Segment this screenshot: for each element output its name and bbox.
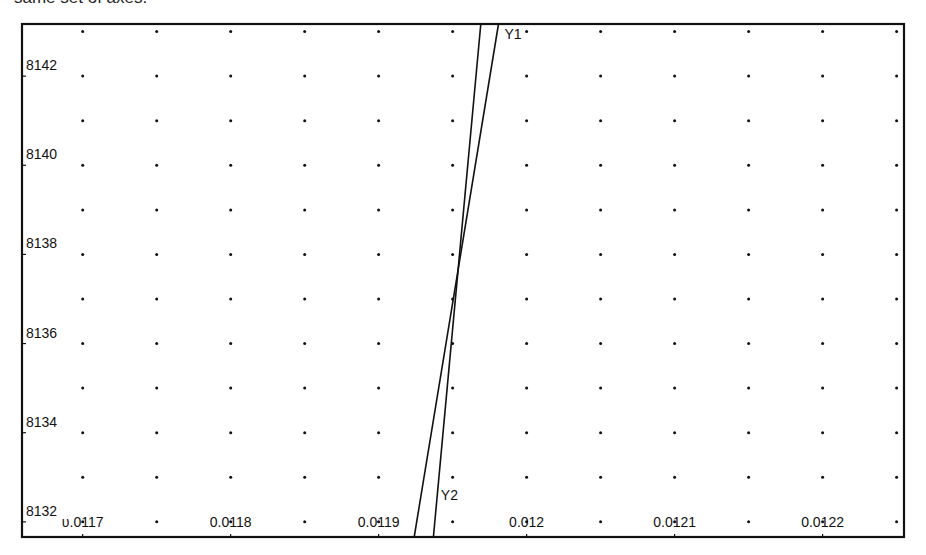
grid-dot bbox=[377, 164, 380, 167]
grid-dot bbox=[525, 30, 528, 33]
grid-dot bbox=[821, 431, 824, 434]
grid-dot bbox=[599, 520, 602, 523]
grid-dot bbox=[525, 119, 528, 122]
grid-dot bbox=[821, 75, 824, 78]
grid-dot bbox=[895, 164, 898, 167]
grid-dot bbox=[821, 30, 824, 33]
y-tick-label: 8134 bbox=[26, 414, 57, 430]
grid-dot bbox=[81, 30, 84, 33]
grid-dot bbox=[229, 30, 232, 33]
grid-dot bbox=[303, 520, 306, 523]
grid-dot bbox=[821, 208, 824, 211]
grid-dot bbox=[81, 75, 84, 78]
grid-dot bbox=[303, 298, 306, 301]
grid-dot bbox=[895, 476, 898, 479]
grid-dot bbox=[377, 30, 380, 33]
grid-dot bbox=[895, 30, 898, 33]
grid-dot bbox=[229, 298, 232, 301]
grid-dot bbox=[747, 75, 750, 78]
y-tick-label: 8138 bbox=[26, 235, 57, 251]
grid-dot bbox=[895, 520, 898, 523]
grid-dot bbox=[599, 387, 602, 390]
grid-dot bbox=[377, 208, 380, 211]
grid-dot bbox=[747, 520, 750, 523]
x-tick-label: 0.0122 bbox=[801, 514, 844, 530]
grid-dot bbox=[377, 75, 380, 78]
y-axis-labels: 813281348136813881408142 bbox=[26, 57, 57, 519]
grid-dot bbox=[747, 431, 750, 434]
grid-dot bbox=[229, 119, 232, 122]
grid-dot bbox=[229, 476, 232, 479]
grid-dot bbox=[747, 208, 750, 211]
grid-dot bbox=[821, 387, 824, 390]
grid-dot bbox=[155, 30, 158, 33]
grid-dot bbox=[895, 298, 898, 301]
grid-dot bbox=[673, 253, 676, 256]
x-tick-label: 0.0119 bbox=[358, 514, 400, 530]
grid-dot bbox=[673, 476, 676, 479]
grid-dot bbox=[155, 476, 158, 479]
x-tick-label: 0.012 bbox=[509, 514, 544, 530]
grid-dot bbox=[229, 75, 232, 78]
grid-dot bbox=[303, 342, 306, 345]
grid-dot bbox=[599, 119, 602, 122]
grid-dot bbox=[525, 431, 528, 434]
grid-dot bbox=[155, 387, 158, 390]
grid-dot bbox=[747, 253, 750, 256]
grid-dot bbox=[525, 164, 528, 167]
grid-dot bbox=[525, 387, 528, 390]
grid-dot bbox=[303, 30, 306, 33]
grid-dot bbox=[155, 298, 158, 301]
grid-dot bbox=[303, 119, 306, 122]
grid-dot bbox=[821, 119, 824, 122]
grid-dot bbox=[747, 119, 750, 122]
grid-dot bbox=[229, 431, 232, 434]
grid-dot bbox=[155, 342, 158, 345]
grid-dot bbox=[377, 342, 380, 345]
grid-dot bbox=[229, 342, 232, 345]
grid-dot bbox=[895, 253, 898, 256]
grid-dot bbox=[451, 208, 454, 211]
grid-dot bbox=[747, 30, 750, 33]
grid-dot bbox=[81, 431, 84, 434]
grid-dot bbox=[821, 342, 824, 345]
x-tick-label: 0.0118 bbox=[210, 514, 252, 530]
grid-dot bbox=[747, 298, 750, 301]
grid-dot bbox=[895, 208, 898, 211]
grid-dot bbox=[303, 164, 306, 167]
grid-dot bbox=[821, 253, 824, 256]
x-tick-label: υ.0117 bbox=[62, 514, 104, 530]
grid-dot bbox=[673, 75, 676, 78]
grid-dot bbox=[525, 342, 528, 345]
grid-dot bbox=[673, 119, 676, 122]
series-line-y2 bbox=[433, 24, 480, 537]
chart: 813281348136813881408142 υ.01170.01180.0… bbox=[0, 0, 926, 555]
axis-ticks bbox=[22, 76, 823, 537]
grid-dot bbox=[377, 476, 380, 479]
grid-dot bbox=[155, 208, 158, 211]
grid-dot bbox=[229, 387, 232, 390]
y-tick-label: 8132 bbox=[26, 503, 57, 519]
grid-dot bbox=[599, 30, 602, 33]
grid-dot bbox=[377, 387, 380, 390]
grid-dot bbox=[599, 208, 602, 211]
grid-dot bbox=[377, 253, 380, 256]
grid-dot bbox=[673, 208, 676, 211]
grid-dot bbox=[451, 164, 454, 167]
series-label-y2: Y2 bbox=[441, 487, 458, 503]
grid-dot bbox=[451, 520, 454, 523]
grid-dot bbox=[895, 75, 898, 78]
grid-dot bbox=[673, 30, 676, 33]
grid-dot bbox=[525, 298, 528, 301]
grid-dot bbox=[155, 253, 158, 256]
grid-dot bbox=[81, 119, 84, 122]
grid-dot bbox=[599, 75, 602, 78]
grid-dot bbox=[599, 476, 602, 479]
grid-dot bbox=[525, 476, 528, 479]
grid-dot bbox=[451, 119, 454, 122]
grid-dot bbox=[81, 253, 84, 256]
grid-dot bbox=[303, 208, 306, 211]
grid-dot bbox=[303, 431, 306, 434]
grid-dot bbox=[81, 476, 84, 479]
grid-dot bbox=[81, 298, 84, 301]
